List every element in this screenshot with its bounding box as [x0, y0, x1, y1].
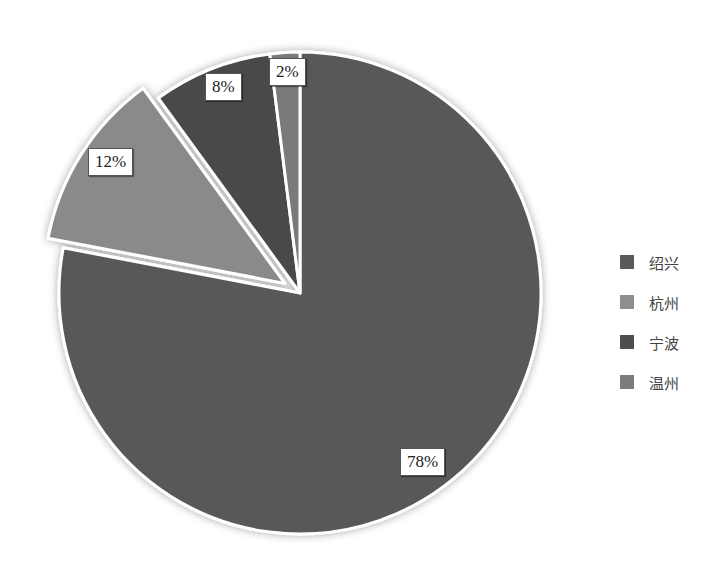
legend-label: 绍兴	[649, 252, 679, 273]
pie-chart	[0, 0, 728, 578]
legend-label: 杭州	[649, 292, 679, 313]
data-label-hangzhou: 12%	[88, 148, 133, 176]
data-label-shaoxing: 78%	[400, 448, 445, 476]
legend-swatch-icon	[620, 375, 634, 389]
legend-swatch-icon	[620, 295, 634, 309]
legend-item-hangzhou: 杭州	[620, 292, 679, 312]
data-label-ningbo: 8%	[205, 73, 242, 101]
legend-swatch-icon	[620, 255, 634, 269]
legend-item-wenzhou: 温州	[620, 372, 679, 392]
data-label-wenzhou: 2%	[269, 58, 306, 86]
legend-swatch-icon	[620, 335, 634, 349]
legend: 绍兴 杭州 宁波 温州	[620, 252, 679, 412]
legend-item-ningbo: 宁波	[620, 332, 679, 352]
legend-label: 温州	[649, 372, 679, 393]
legend-label: 宁波	[649, 332, 679, 353]
legend-item-shaoxing: 绍兴	[620, 252, 679, 272]
